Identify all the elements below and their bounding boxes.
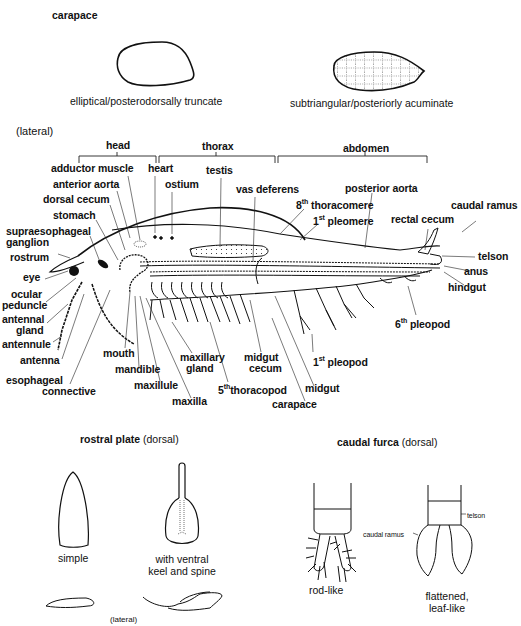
rostral-plate-keeled-caption: with ventral keel and spine [146, 553, 218, 577]
region-thorax-label: thorax [202, 141, 234, 152]
caudal-furca-rod-like-caption: rod-like [309, 584, 343, 596]
label-rectal-cecum: rectal cecum [391, 214, 454, 225]
carapace-elliptical-caption: elliptical/posterodorsally truncate [70, 95, 222, 107]
rostral-plate-simple-caption: simple [58, 552, 88, 564]
carapace-subtriangular-caption: subtriangular/posteriorly acuminate [290, 97, 453, 109]
diagram-drawings [0, 0, 521, 626]
label-midgut-cecum-2: cecum [249, 363, 282, 374]
label-maxillary-gland-2: gland [186, 363, 214, 374]
label-1st-pleopod: 1st pleopod [313, 353, 368, 368]
label-antennal-gland-2: gland [16, 325, 44, 336]
label-caudal-ramus: caudal ramus [451, 200, 518, 211]
label-5th-thoracopod: 5ththoracopod [218, 381, 287, 396]
label-stomach: stomach [53, 210, 95, 221]
label-eye: eye [23, 272, 40, 283]
lateral-view-title: (lateral) [16, 125, 53, 137]
caudal-furca-caudal-ramus-label: caudal ramus [363, 529, 404, 540]
label-rostrum: rostrum [10, 252, 49, 263]
caudal-furca-leaf-like-caption: flattened, leaf-like [420, 590, 474, 614]
rostral-plate-keeled-shape [166, 463, 199, 544]
label-heart: heart [148, 163, 173, 174]
rostral-plate-lateral-label: (lateral) [110, 614, 137, 626]
label-telson: telson [478, 251, 508, 262]
label-adductor-muscle: adductor muscle [51, 163, 134, 174]
label-maxilla: maxilla [172, 396, 207, 407]
label-maxillule: maxillule [134, 380, 178, 391]
label-ostium: ostium [165, 179, 199, 190]
label-testis: testis [206, 165, 233, 176]
label-vas-deferens: vas deferens [236, 184, 299, 195]
label-mouth: mouth [103, 348, 135, 359]
rostral-plate-simple-shape [59, 472, 89, 547]
label-carapace: carapace [272, 399, 317, 410]
label-hindgut: hindgut [448, 282, 486, 293]
label-dorsal-cecum: dorsal cecum [43, 194, 110, 205]
label-1st-pleomere: 1st pleomere [313, 212, 374, 227]
carapace-subtriangular-shape [334, 52, 424, 91]
label-midgut: midgut [305, 383, 339, 394]
carapace-title: carapace [52, 9, 98, 21]
rostral-plate-title: rostral plate (dorsal) [80, 433, 179, 445]
caudal-furca-leaf-like-shape [413, 485, 472, 576]
label-8th-thoracomere: 8th thoracomere [296, 196, 374, 211]
rostral-plate-lateral-shapes [46, 592, 222, 610]
label-mandible: mandible [115, 364, 160, 375]
label-antenna: antenna [20, 355, 60, 366]
label-posterior-aorta: posterior aorta [345, 183, 418, 194]
label-antennule: antennule [2, 339, 51, 350]
label-anterior-aorta: anterior aorta [53, 179, 119, 190]
caudal-furca-rod-like-shape [306, 483, 356, 582]
label-ocular-peduncle-2: peduncle [2, 300, 47, 311]
region-head-label: head [106, 140, 130, 151]
carapace-elliptical-shape [117, 42, 193, 86]
clam-shrimp-lateral-body [50, 208, 442, 350]
caudal-furca-title: caudal furca (dorsal) [337, 436, 437, 448]
label-esophageal-connective-2: connective [42, 386, 96, 397]
label-6th-pleopod: 6th pleopod [395, 315, 450, 330]
label-supraesophageal-ganglion-2: ganglion [6, 237, 49, 248]
region-abdomen-label: abdomen [343, 143, 389, 154]
label-anus: anus [464, 266, 488, 277]
caudal-furca-telson-label: telson [467, 510, 485, 521]
